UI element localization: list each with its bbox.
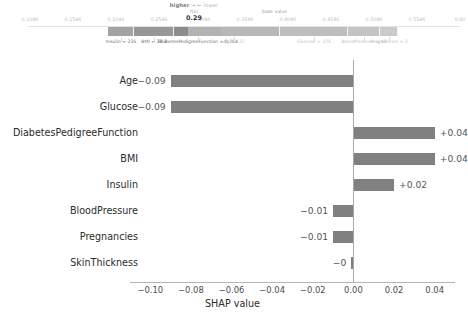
force-plot: higher→ ←lower f(x) base value 0.10460.1… (0, 0, 465, 56)
force-axis-tick: 0.4546 (323, 17, 340, 22)
force-segment-positive (280, 27, 348, 36)
x-tick-label: 0.00 (344, 285, 363, 295)
force-axis-tick: 0.1046 (22, 17, 39, 22)
force-plot-bar (0, 27, 465, 36)
bar-value-label: +0.02 (399, 172, 427, 198)
bar-negative[interactable] (333, 205, 353, 217)
force-segment-divider (397, 27, 398, 36)
force-feature-tick (121, 37, 122, 42)
bar-value-label: −0.09 (137, 68, 165, 94)
force-axis-tick: 0.4046 (280, 17, 297, 22)
bar-row[interactable]: DiabetesPedigreeFunction+0.04 (0, 120, 465, 146)
x-tick-label: −0.04 (259, 285, 285, 295)
bar-row[interactable]: BloodPressure−0.01 (0, 198, 465, 224)
x-tick-label: −0.02 (300, 285, 326, 295)
force-feature-tick (389, 37, 390, 42)
bar-row[interactable]: Glucose−0.09 (0, 94, 465, 120)
force-feature-tick (364, 37, 365, 42)
bar-feature-label: BMI (120, 146, 138, 172)
bar-feature-label: DiabetesPedigreeFunction (13, 120, 138, 146)
x-tick-label: −0.08 (178, 285, 204, 295)
force-feature-tick (198, 37, 199, 42)
force-axis-tick: 0.2046 (108, 17, 125, 22)
bar-row[interactable]: SkinThickness−0 (0, 250, 465, 276)
bar-row[interactable]: BMI+0.04 (0, 146, 465, 172)
bar-positive[interactable] (353, 153, 434, 165)
bar-positive[interactable] (353, 179, 394, 191)
force-axis-tick: 0.60 (455, 17, 466, 22)
force-axis-tick: 0.1546 (65, 17, 82, 22)
force-feature-tick (234, 37, 235, 42)
bar-value-label: −0.09 (137, 94, 165, 120)
bar-feature-label: Pregnancies (80, 224, 138, 250)
x-tick-label: −0.10 (137, 285, 163, 295)
bar-feature-label: SkinThickness (70, 250, 138, 276)
bar-value-label: −0 (333, 250, 347, 276)
bar-row[interactable]: Pregnancies−0.01 (0, 224, 465, 250)
bar-positive[interactable] (353, 127, 434, 139)
x-tick-label: 0.04 (425, 285, 444, 295)
bar-value-label: −0.01 (300, 198, 328, 224)
bar-value-label: +0.04 (440, 120, 468, 146)
force-axis-tick: 0.5546 (409, 17, 426, 22)
lower-label: lower (204, 2, 219, 8)
force-segment-negative (134, 27, 174, 36)
bar-feature-label: Age (119, 68, 138, 94)
x-tick-label: 0.02 (385, 285, 404, 295)
base-value-label: base value (262, 9, 287, 14)
bar-value-label: +0.04 (440, 146, 468, 172)
force-axis-tick: 0.3546 (237, 17, 254, 22)
force-segment-positive (380, 27, 398, 36)
force-segment-positive (348, 27, 380, 36)
higher-label: higher (170, 2, 190, 8)
fx-value: 0.29 (186, 14, 202, 22)
bar-negative[interactable] (171, 75, 354, 87)
bar-feature-label: Glucose (100, 94, 138, 120)
force-segment-negative (108, 27, 134, 36)
zero-line (353, 60, 354, 282)
bar-negative[interactable] (333, 231, 353, 243)
x-tick-label: −0.06 (219, 285, 245, 295)
force-segment-positive (188, 27, 280, 36)
force-axis-tick: 0.2546 (151, 17, 168, 22)
bar-value-label: −0.01 (300, 224, 328, 250)
shap-bar-chart: Age−0.09Glucose−0.09DiabetesPedigreeFunc… (0, 60, 465, 312)
force-plot-feature-labels: Insulin = 235BMI = 38.3DiabetesPedigreeF… (0, 38, 465, 52)
x-axis-line (130, 282, 455, 283)
bar-feature-label: Insulin (107, 172, 138, 198)
force-feature-tick (314, 37, 315, 42)
bar-row[interactable]: Age−0.09 (0, 68, 465, 94)
force-feature-tick (154, 37, 155, 42)
fx-label: f(x) (0, 9, 427, 14)
force-axis-tick: 0.5046 (366, 17, 383, 22)
x-axis-label: SHAP value (0, 298, 465, 309)
bar-negative[interactable] (171, 101, 354, 113)
bar-row[interactable]: Insulin+0.02 (0, 172, 465, 198)
bar-feature-label: BloodPressure (70, 198, 138, 224)
direction-arrows-icon: → ← (191, 2, 201, 8)
